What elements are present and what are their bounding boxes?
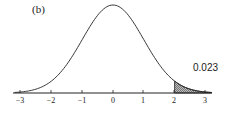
normal-curve-plot (0, 0, 233, 113)
x-tick-label: −2 (47, 96, 56, 105)
shaded-tail-area (175, 81, 212, 93)
x-tick-label: 2 (172, 96, 176, 105)
x-tick-label: 3 (203, 96, 207, 105)
panel-label: (b) (32, 3, 45, 15)
density-curve (14, 5, 211, 92)
x-tick-label: −3 (16, 96, 25, 105)
x-tick-label: −1 (78, 96, 87, 105)
x-tick-label: 1 (141, 96, 145, 105)
x-tick-label: 0 (111, 96, 115, 105)
tail-probability-annotation: 0.023 (193, 62, 218, 73)
